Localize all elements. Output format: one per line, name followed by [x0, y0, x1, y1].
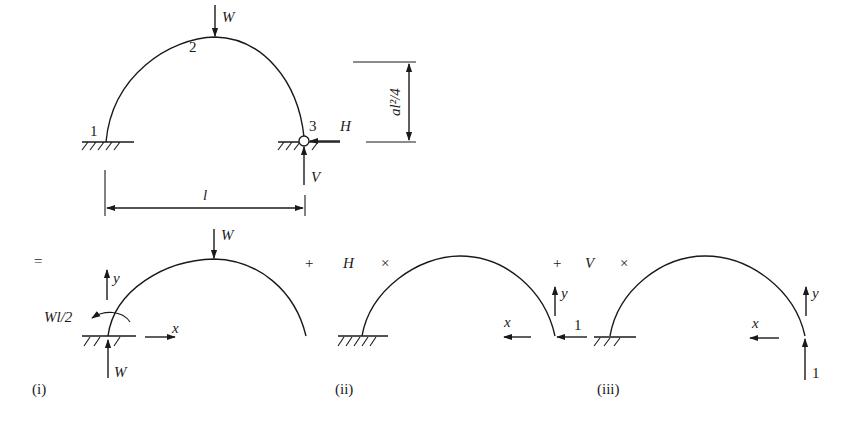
rise-dimension: al²/4: [353, 62, 416, 142]
case-ii-caption: (ii): [335, 381, 353, 398]
case-ii-y-label: y: [559, 285, 568, 301]
case-i-moment-label: Wl/2: [44, 309, 73, 325]
span-dimension: l: [105, 170, 305, 216]
case-iii-figure: 1 y x (iii): [594, 256, 820, 398]
h-factor: H: [342, 255, 355, 271]
node-1-label: 1: [90, 123, 98, 139]
reaction-v-label: V: [311, 169, 322, 185]
times-sign-2: ×: [620, 255, 628, 271]
case-i-figure: W Wl/2 W y x (i): [32, 227, 306, 398]
case-i-arch: [108, 259, 306, 336]
span-label: l: [203, 187, 207, 203]
load-w-label: W: [222, 9, 236, 25]
case-ii-unit-load-label: 1: [574, 317, 582, 333]
case-i-moment-arrow: [92, 312, 130, 322]
node-3-label: 3: [309, 118, 317, 134]
rise-label: al²/4: [387, 88, 403, 116]
case-ii-figure: 1 y x (ii): [335, 256, 587, 398]
top-arch-figure: W 1 2 3 H V l al²/4: [82, 5, 416, 216]
node-2-label: 2: [189, 39, 197, 55]
times-sign-1: ×: [381, 255, 389, 271]
case-iii-y-label: y: [810, 285, 819, 301]
plus-sign-1: +: [305, 255, 313, 271]
case-iii-x-label: x: [751, 315, 759, 331]
top-arch: [106, 37, 304, 142]
equals-sign: =: [34, 253, 42, 269]
case-i-caption: (i): [32, 381, 46, 398]
arch-superposition-diagram: W 1 2 3 H V l al²/4 = + H × + V ×: [0, 0, 852, 424]
case-i-reaction-label: W: [114, 364, 128, 380]
case-iii-unit-load-label: 1: [812, 365, 820, 381]
case-iii-caption: (iii): [597, 381, 620, 398]
pin-hinge: [299, 136, 309, 146]
case-ii-arch: [362, 256, 555, 336]
pinned-support-3: [278, 136, 340, 150]
case-iii-arch: [610, 256, 805, 336]
v-factor: V: [585, 255, 596, 271]
case-i-load-label: W: [221, 227, 235, 243]
case-ii-x-label: x: [503, 314, 511, 330]
case-i-y-label: y: [111, 270, 120, 286]
case-i-x-label: x: [171, 320, 179, 336]
reaction-h-label: H: [339, 118, 352, 134]
plus-sign-2: +: [553, 255, 561, 271]
fixed-support-1: [82, 142, 134, 150]
